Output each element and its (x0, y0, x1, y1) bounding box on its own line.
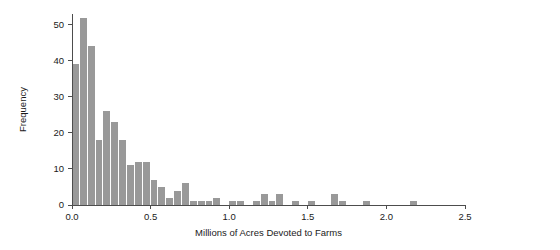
histogram-bar (166, 198, 173, 205)
histogram-bar (261, 194, 268, 205)
histogram-bar (111, 122, 118, 205)
y-tick-label: 30 (53, 91, 64, 102)
histogram-bar (410, 201, 417, 205)
y-tick-label: 50 (53, 19, 64, 30)
histogram-bar (158, 187, 165, 205)
histogram-bar (237, 201, 244, 205)
histogram-bar (276, 194, 283, 205)
y-axis: 01020304050 (53, 14, 72, 210)
histogram-bar (72, 64, 79, 205)
x-tick-label: 0.5 (144, 211, 157, 222)
histogram-bar (80, 18, 87, 205)
histogram-bar (96, 140, 103, 205)
x-tick-label: 1.0 (223, 211, 236, 222)
histogram-chart: 01020304050 0.00.51.01.52.02.5 Millions … (0, 0, 560, 250)
histogram-bar (88, 46, 95, 205)
y-tick-label: 10 (53, 163, 64, 174)
x-axis: 0.00.51.01.52.02.5 (65, 205, 471, 222)
histogram-figure: 01020304050 0.00.51.01.52.02.5 Millions … (0, 0, 560, 250)
histogram-bar (229, 201, 236, 205)
histogram-bar (292, 201, 299, 205)
histogram-bar (269, 201, 276, 205)
y-axis-title: Frequency (17, 87, 28, 132)
y-tick-label: 20 (53, 127, 64, 138)
x-tick-label: 1.5 (301, 211, 314, 222)
histogram-bar (135, 162, 142, 205)
histogram-bar (119, 140, 126, 205)
histogram-bar (213, 198, 220, 205)
histogram-bar (151, 180, 158, 205)
histogram-bar (339, 201, 346, 205)
histogram-bar (198, 201, 205, 205)
bars-group (72, 18, 417, 205)
y-tick-label: 0 (59, 199, 64, 210)
x-tick-label: 2.0 (380, 211, 393, 222)
histogram-bar (103, 111, 110, 205)
x-tick-label: 2.5 (458, 211, 471, 222)
x-axis-title: Millions of Acres Devoted to Farms (195, 227, 342, 238)
histogram-bar (331, 194, 338, 205)
histogram-bar (182, 183, 189, 205)
histogram-bar (127, 165, 134, 205)
histogram-bar (190, 201, 197, 205)
y-tick-label: 40 (53, 55, 64, 66)
histogram-bar (174, 191, 181, 205)
histogram-bar (308, 201, 315, 205)
histogram-bar (206, 201, 213, 205)
x-tick-label: 0.0 (65, 211, 78, 222)
histogram-bar (143, 162, 150, 205)
histogram-bar (253, 201, 260, 205)
histogram-bar (363, 201, 370, 205)
